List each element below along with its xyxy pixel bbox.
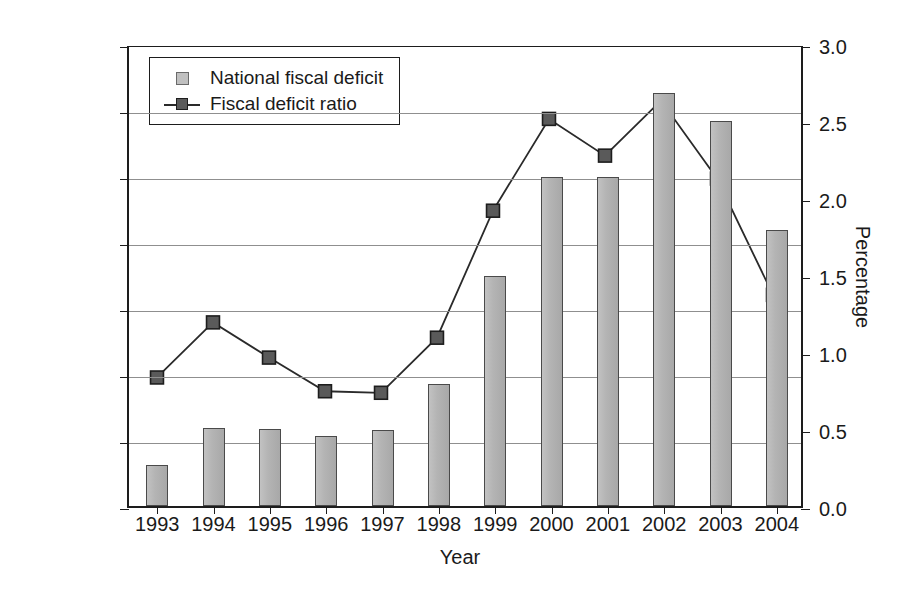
fiscal-deficit-chart: 100 million Percentage Year National fis… [0, 0, 920, 590]
y-axis-right-tick-label: 0.5 [819, 421, 847, 444]
y-axis-left-tick [120, 47, 129, 48]
y-axis-right-tick [801, 509, 810, 510]
ratio-data-point-marker [263, 351, 276, 364]
ratio-data-point-marker [319, 385, 332, 398]
y-axis-left-tick [120, 113, 129, 114]
y-axis-left-tick [120, 509, 129, 510]
x-axis-title: Year [0, 546, 920, 569]
bar-national-fiscal-deficit [710, 121, 732, 506]
x-axis-tick-label: 2000 [529, 513, 574, 536]
legend-line-marker-icon [160, 94, 204, 114]
gridline [129, 179, 801, 180]
bar-national-fiscal-deficit [146, 465, 168, 506]
x-axis-tick-label: 1999 [473, 513, 518, 536]
ratio-line-path [157, 101, 773, 393]
bar-national-fiscal-deficit [541, 177, 563, 506]
y-axis-left-tick [120, 311, 129, 312]
ratio-data-point-marker [487, 204, 500, 217]
x-axis-tick-label: 1998 [417, 513, 462, 536]
legend-label-fiscal-deficit-ratio: Fiscal deficit ratio [210, 93, 357, 115]
bar-national-fiscal-deficit [597, 177, 619, 506]
bar-national-fiscal-deficit [259, 429, 281, 506]
ratio-data-point-marker [543, 112, 556, 125]
y-axis-right-tick [801, 432, 810, 433]
ratio-data-point-marker [599, 149, 612, 162]
gridline [129, 443, 801, 444]
ratio-data-point-marker [375, 386, 388, 399]
gridline [129, 113, 801, 114]
x-axis-tick-label: 1996 [304, 513, 349, 536]
x-axis-tick-label: 2001 [586, 513, 631, 536]
y-axis-left-tick [120, 377, 129, 378]
x-axis-tick-label: 1997 [360, 513, 405, 536]
y-axis-right-tick [801, 47, 810, 48]
legend-label-national-fiscal-deficit: National fiscal deficit [210, 67, 383, 89]
y-axis-right-tick-label: 2.0 [819, 190, 847, 213]
y-axis-left-tick [120, 443, 129, 444]
y-axis-right-tick-label: 1.0 [819, 344, 847, 367]
legend-bar-swatch-icon [160, 68, 204, 88]
gridline [129, 245, 801, 246]
chart-legend: National fiscal deficit Fiscal deficit r… [149, 57, 400, 125]
plot-area: National fiscal deficit Fiscal deficit r… [127, 46, 803, 508]
y-axis-right-tick [801, 355, 810, 356]
bar-national-fiscal-deficit [484, 276, 506, 506]
bar-national-fiscal-deficit [315, 436, 337, 506]
y-axis-right-tick-label: 3.0 [819, 36, 847, 59]
ratio-data-point-marker [431, 331, 444, 344]
y-axis-right-tick-label: 2.5 [819, 113, 847, 136]
gridline [129, 377, 801, 378]
x-axis-tick-label: 1994 [191, 513, 236, 536]
gridline [129, 311, 801, 312]
x-axis-tick-label: 2002 [642, 513, 687, 536]
x-axis-tick-label: 1993 [135, 513, 180, 536]
y-axis-right-tick [801, 278, 810, 279]
ratio-data-point-marker [207, 316, 220, 329]
y-axis-right-title: Percentage [851, 226, 874, 328]
x-axis-tick-label: 1995 [248, 513, 293, 536]
x-axis-tick-label: 2004 [755, 513, 800, 536]
y-axis-right-tick-label: 1.5 [819, 267, 847, 290]
y-axis-left-tick [120, 245, 129, 246]
bar-national-fiscal-deficit [372, 430, 394, 506]
bar-national-fiscal-deficit [653, 93, 675, 506]
bar-national-fiscal-deficit [766, 230, 788, 506]
y-axis-left-tick [120, 179, 129, 180]
legend-item-national-fiscal-deficit: National fiscal deficit [160, 65, 383, 91]
bar-national-fiscal-deficit [428, 384, 450, 506]
y-axis-right-tick-label: 0.0 [819, 498, 847, 521]
bar-national-fiscal-deficit [203, 428, 225, 506]
y-axis-right-tick [801, 201, 810, 202]
x-axis-tick-label: 2003 [698, 513, 743, 536]
y-axis-right-tick [801, 124, 810, 125]
